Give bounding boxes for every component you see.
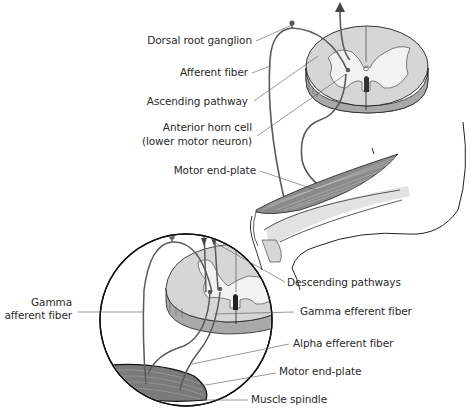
- ascending-arrow-icon: [335, 2, 345, 12]
- label-lower-motor-neuron: (lower motor neuron): [142, 135, 252, 148]
- magnified-inset: [100, 228, 296, 406]
- label-gamma-efferent-fiber: Gamma efferent fiber: [300, 305, 412, 318]
- diagram-artwork: [0, 0, 474, 413]
- label-dorsal-root-ganglion: Dorsal root ganglion: [147, 34, 252, 47]
- anterior-horn-cell-dot: [346, 68, 350, 72]
- label-alpha-efferent-fiber: Alpha efferent fiber: [293, 337, 393, 350]
- label-motor-end-plate-top: Motor end-plate: [174, 164, 256, 177]
- label-descending-pathways: Descending pathways: [287, 276, 401, 289]
- label-muscle-spindle: Muscle spindle: [251, 393, 327, 406]
- label-gamma: Gamma: [31, 296, 72, 309]
- leg-and-muscle: [250, 122, 465, 290]
- label-anterior-horn-cell: Anterior horn cell: [163, 121, 252, 134]
- label-afferent-fiber: Afferent fiber: [180, 66, 248, 79]
- label-gamma-afferent-fiber: afferent fiber: [4, 309, 72, 322]
- label-ascending-pathway: Ascending pathway: [147, 95, 248, 108]
- label-motor-end-plate-bottom: Motor end-plate: [279, 365, 361, 378]
- spinal-reflex-diagram: Dorsal root ganglion Afferent fiber Asce…: [0, 0, 474, 413]
